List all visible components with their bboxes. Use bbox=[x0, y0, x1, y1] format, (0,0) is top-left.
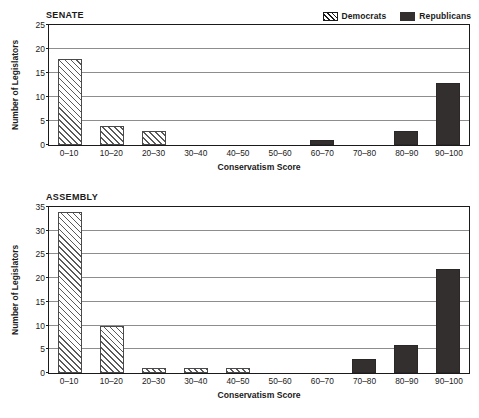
x-tick-label: 60–70 bbox=[301, 376, 343, 386]
bar-republicans-80-90[interactable] bbox=[394, 131, 417, 145]
assembly-y-axis-label: Number of Legislators bbox=[10, 245, 20, 335]
bar-democrats-10-20[interactable] bbox=[100, 326, 123, 373]
assembly-chart: ASSEMBLY Number of Legislators 051015202… bbox=[0, 192, 479, 418]
y-tick-label: 35 bbox=[36, 202, 45, 212]
bar-slot[interactable] bbox=[91, 25, 133, 145]
assembly-bars bbox=[49, 207, 469, 373]
assembly-plot-area: 05101520253035 bbox=[48, 206, 470, 374]
senate-y-axis-label: Number of Legislators bbox=[10, 40, 20, 130]
bar-slot[interactable] bbox=[301, 207, 343, 373]
bar-republicans-70-80[interactable] bbox=[352, 359, 375, 373]
bar-democrats-40-50[interactable] bbox=[226, 368, 249, 373]
x-tick-label: 10–20 bbox=[90, 148, 132, 158]
senate-plot-area: 0510152025 bbox=[48, 24, 470, 146]
bar-democrats-20-30[interactable] bbox=[142, 368, 165, 373]
bar-slot[interactable] bbox=[91, 207, 133, 373]
x-tick-label: 10–20 bbox=[90, 376, 132, 386]
assembly-x-axis-label: Conservatism Score bbox=[48, 390, 470, 400]
y-tick-label: 15 bbox=[36, 297, 45, 307]
senate-x-axis-label: Conservatism Score bbox=[48, 162, 470, 172]
x-tick-label: 70–80 bbox=[343, 148, 385, 158]
x-tick-label: 50–60 bbox=[259, 148, 301, 158]
bar-democrats-20-30[interactable] bbox=[142, 131, 165, 145]
bar-slot[interactable] bbox=[133, 207, 175, 373]
senate-panel-title: SENATE bbox=[46, 10, 84, 20]
bar-slot[interactable] bbox=[217, 207, 259, 373]
y-tick-label: 5 bbox=[40, 344, 45, 354]
x-tick-label: 0–10 bbox=[48, 148, 90, 158]
bar-slot[interactable] bbox=[427, 25, 469, 145]
bar-democrats-30-40[interactable] bbox=[184, 368, 207, 373]
bar-democrats-0-10[interactable] bbox=[58, 59, 81, 145]
x-tick-label: 90–100 bbox=[428, 148, 470, 158]
bar-slot[interactable] bbox=[49, 25, 91, 145]
x-tick-label: 40–50 bbox=[217, 376, 259, 386]
y-tick-label: 25 bbox=[36, 249, 45, 259]
x-tick-label: 0–10 bbox=[48, 376, 90, 386]
x-tick-label: 40–50 bbox=[217, 148, 259, 158]
y-tick-label: 25 bbox=[36, 20, 45, 30]
bar-slot[interactable] bbox=[385, 207, 427, 373]
y-tick-label: 10 bbox=[36, 92, 45, 102]
y-tick-label: 15 bbox=[36, 68, 45, 78]
x-tick-label: 30–40 bbox=[175, 376, 217, 386]
y-tick-label: 0 bbox=[40, 368, 45, 378]
x-tick-label: 50–60 bbox=[259, 376, 301, 386]
bar-slot[interactable] bbox=[175, 25, 217, 145]
y-tick-label: 0 bbox=[40, 140, 45, 150]
y-tick-label: 20 bbox=[36, 273, 45, 283]
x-tick-label: 20–30 bbox=[132, 376, 174, 386]
y-tick-label: 20 bbox=[36, 44, 45, 54]
assembly-panel-title: ASSEMBLY bbox=[46, 192, 98, 202]
bar-slot[interactable] bbox=[217, 25, 259, 145]
y-tick-label: 10 bbox=[36, 321, 45, 331]
bar-slot[interactable] bbox=[175, 207, 217, 373]
bar-slot[interactable] bbox=[427, 207, 469, 373]
x-tick-label: 80–90 bbox=[386, 376, 428, 386]
figure-root: Democrats Republicans SENATE Number of L… bbox=[0, 0, 479, 418]
bar-slot[interactable] bbox=[259, 207, 301, 373]
x-tick-label: 20–30 bbox=[132, 148, 174, 158]
bar-democrats-0-10[interactable] bbox=[58, 212, 81, 373]
bar-slot[interactable] bbox=[49, 207, 91, 373]
bar-slot[interactable] bbox=[385, 25, 427, 145]
bar-republicans-80-90[interactable] bbox=[394, 345, 417, 373]
x-tick-label: 90–100 bbox=[428, 376, 470, 386]
bar-slot[interactable] bbox=[301, 25, 343, 145]
senate-x-tick-labels: 0–1010–2020–3030–4040–5050–6060–7070–808… bbox=[48, 148, 470, 158]
bar-republicans-60-70[interactable] bbox=[310, 140, 333, 145]
bar-republicans-90-100[interactable] bbox=[436, 269, 459, 373]
senate-bars bbox=[49, 25, 469, 145]
y-tick-label: 5 bbox=[40, 116, 45, 126]
bar-democrats-10-20[interactable] bbox=[100, 126, 123, 145]
bar-slot[interactable] bbox=[343, 207, 385, 373]
y-tick-label: 30 bbox=[36, 226, 45, 236]
x-tick-label: 30–40 bbox=[175, 148, 217, 158]
assembly-x-tick-labels: 0–1010–2020–3030–4040–5050–6060–7070–808… bbox=[48, 376, 470, 386]
senate-chart: SENATE Number of Legislators 0510152025 … bbox=[0, 10, 479, 190]
x-tick-label: 60–70 bbox=[301, 148, 343, 158]
bar-slot[interactable] bbox=[133, 25, 175, 145]
x-tick-label: 80–90 bbox=[386, 148, 428, 158]
x-tick-label: 70–80 bbox=[343, 376, 385, 386]
bar-slot[interactable] bbox=[259, 25, 301, 145]
bar-republicans-90-100[interactable] bbox=[436, 83, 459, 145]
bar-slot[interactable] bbox=[343, 25, 385, 145]
